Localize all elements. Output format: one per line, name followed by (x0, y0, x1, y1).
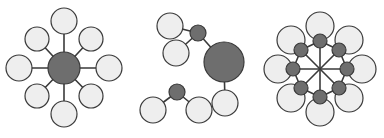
atom-dark-R-d-ne (332, 43, 346, 57)
atom-light-L-n (51, 8, 77, 34)
atom-dark-R-d-sw (294, 81, 308, 95)
atom-dark-L-center (48, 52, 80, 84)
molecular-diagram-figure (0, 0, 384, 138)
atom-light-L-s (51, 101, 77, 127)
atom-light-L-ne (79, 27, 103, 51)
atom-dark-M-small2 (169, 84, 185, 100)
diagram-canvas (0, 0, 384, 138)
atom-light-L-sw (25, 84, 49, 108)
atom-dark-R-d-se (332, 81, 346, 95)
atom-light-M-l5 (186, 97, 212, 123)
atom-dark-R-d-nw (294, 43, 308, 57)
atom-light-L-e (96, 55, 122, 81)
atom-light-M-l2 (163, 40, 189, 66)
atom-dark-M-big (204, 42, 244, 82)
atom-light-L-se (79, 84, 103, 108)
atom-dark-R-d-s (313, 90, 327, 104)
atom-dark-R-d-n (313, 34, 327, 48)
atom-light-M-l4 (140, 97, 166, 123)
atom-light-M-l1 (157, 13, 183, 39)
atom-light-L-nw (25, 27, 49, 51)
atom-dark-R-d-w (286, 62, 300, 76)
atom-light-L-w (6, 55, 32, 81)
atom-light-M-l3 (212, 90, 238, 116)
atom-dark-M-small (190, 25, 206, 41)
atom-dark-R-d-e (340, 62, 354, 76)
